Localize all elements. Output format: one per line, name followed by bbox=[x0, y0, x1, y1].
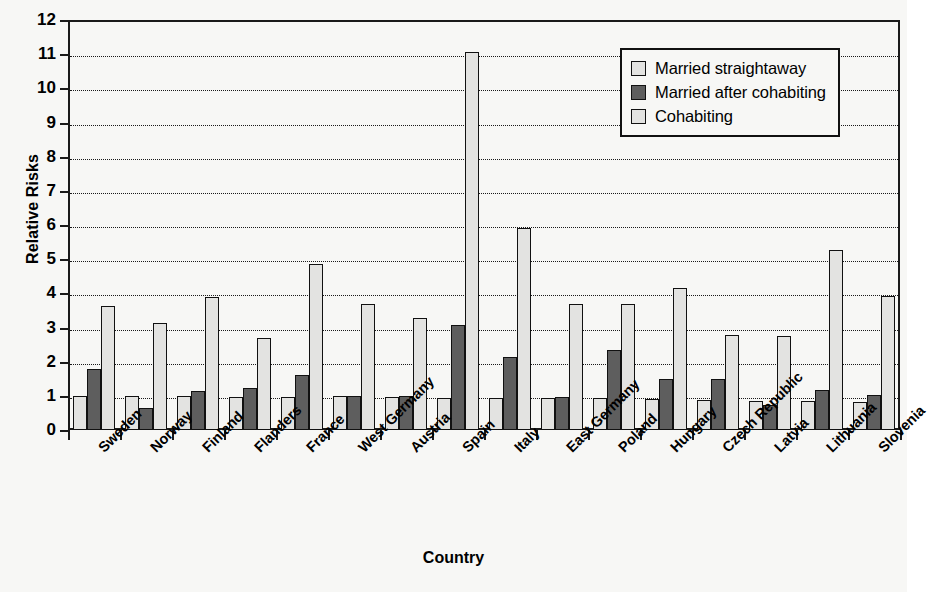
legend-item: Cohabiting bbox=[631, 104, 826, 128]
bar bbox=[87, 369, 101, 430]
y-axis-tick-label: 11 bbox=[20, 45, 56, 62]
bar bbox=[541, 398, 555, 430]
y-axis-tick-label: 4 bbox=[20, 284, 56, 301]
bar bbox=[73, 396, 87, 430]
bar bbox=[257, 338, 271, 430]
bar bbox=[621, 304, 635, 430]
y-axis-tick-label: 2 bbox=[20, 353, 56, 370]
bar bbox=[309, 264, 323, 430]
y-axis-tick-label: 6 bbox=[20, 216, 56, 233]
bar bbox=[829, 250, 843, 430]
x-axis-tick bbox=[68, 430, 70, 440]
bar bbox=[347, 396, 361, 430]
bar bbox=[503, 357, 517, 430]
bar bbox=[517, 228, 531, 430]
y-axis-tick-label: 8 bbox=[20, 148, 56, 165]
bar bbox=[101, 306, 115, 430]
bar bbox=[673, 288, 687, 430]
bar bbox=[295, 375, 309, 430]
legend-swatch-icon bbox=[631, 109, 646, 124]
bar bbox=[451, 325, 465, 430]
bar bbox=[465, 52, 479, 430]
y-axis-title: Relative Risks bbox=[24, 114, 42, 304]
bar bbox=[659, 379, 673, 430]
y-axis-tick-label: 10 bbox=[20, 79, 56, 96]
bar bbox=[711, 379, 725, 430]
legend-item-label: Married after cohabiting bbox=[655, 83, 826, 102]
bar bbox=[555, 397, 569, 430]
bar bbox=[191, 391, 205, 430]
legend-swatch-icon bbox=[631, 85, 646, 100]
y-axis-tick-label: 1 bbox=[20, 387, 56, 404]
x-axis-title: Country bbox=[0, 549, 907, 567]
bar bbox=[205, 297, 219, 430]
legend-item: Married straightaway bbox=[631, 56, 826, 80]
y-axis-tick-label: 9 bbox=[20, 114, 56, 131]
bar bbox=[725, 335, 739, 430]
bar bbox=[153, 323, 167, 430]
y-axis-tick-label: 5 bbox=[20, 250, 56, 267]
bar bbox=[881, 296, 895, 430]
y-axis-tick-label: 0 bbox=[20, 421, 56, 438]
bar bbox=[569, 304, 583, 430]
bar bbox=[243, 388, 257, 430]
legend-item-label: Married straightaway bbox=[655, 59, 806, 78]
bar bbox=[361, 304, 375, 430]
bar bbox=[815, 390, 829, 430]
y-axis-tick-label: 3 bbox=[20, 319, 56, 336]
legend-item-label: Cohabiting bbox=[655, 107, 733, 126]
legend-swatch-icon bbox=[631, 61, 646, 76]
y-axis-tick-label: 7 bbox=[20, 182, 56, 199]
legend: Married straightawayMarried after cohabi… bbox=[620, 48, 840, 137]
y-axis-tick-label: 12 bbox=[20, 11, 56, 28]
legend-item: Married after cohabiting bbox=[631, 80, 826, 104]
